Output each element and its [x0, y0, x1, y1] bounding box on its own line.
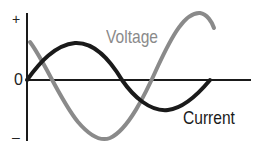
current-curve [27, 43, 210, 110]
y-axis-plus-label: + [12, 12, 20, 26]
y-axis-zero-label: 0 [14, 72, 23, 88]
y-axis-minus-label: – [12, 130, 20, 144]
waveform-diagram [0, 0, 264, 154]
current-label: Current [183, 108, 235, 127]
voltage-label: Voltage [106, 27, 158, 46]
